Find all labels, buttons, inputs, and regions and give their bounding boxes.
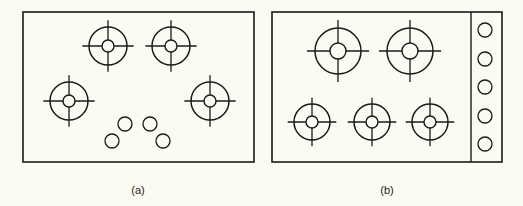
cooktop-frame	[23, 12, 254, 162]
cooktop-layout-diagram	[0, 0, 523, 206]
cooktop-panel-b	[272, 12, 502, 162]
control-knob-icon	[105, 134, 119, 148]
caption-a: (a)	[118, 184, 158, 196]
control-knob-icon	[118, 117, 132, 131]
burner-inner-ring	[306, 116, 318, 128]
burner-inner-ring	[424, 116, 436, 128]
burner-icon	[348, 98, 397, 147]
burner-icon	[307, 20, 369, 82]
control-knob-icon	[478, 137, 492, 151]
control-knob-icon	[156, 134, 170, 148]
burner-icon	[82, 20, 133, 71]
burner-inner-ring	[165, 40, 177, 52]
control-knob-icon	[143, 117, 157, 131]
burner-inner-ring	[204, 95, 216, 107]
control-knob-icon	[478, 109, 492, 123]
control-knob-icon	[478, 23, 492, 37]
burner-inner-ring	[330, 43, 346, 59]
burner-inner-ring	[402, 43, 418, 59]
burner-inner-ring	[63, 95, 75, 107]
burner-inner-ring	[102, 40, 114, 52]
burner-icon	[43, 75, 94, 126]
burner-icon	[288, 98, 337, 147]
control-knob-icon	[478, 80, 492, 94]
burner-icon	[379, 20, 441, 82]
burner-icon	[145, 20, 196, 71]
control-knob-icon	[478, 52, 492, 66]
burner-icon	[406, 98, 455, 147]
caption-b: (b)	[367, 184, 407, 196]
burner-inner-ring	[366, 116, 378, 128]
cooktop-panel-a	[23, 12, 254, 162]
burner-icon	[184, 75, 235, 126]
